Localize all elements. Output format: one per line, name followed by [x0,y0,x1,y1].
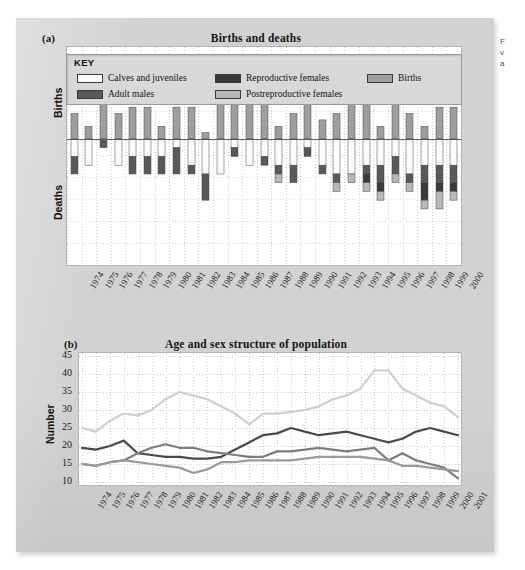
x-tick-label: 1976 [117,270,135,291]
x-tick-label: 1978 [151,490,169,511]
margin-caption-fragment: F v a [500,36,525,69]
legend-label-adult-males: Adult males [108,89,154,99]
y-tick-label: 40 [48,367,72,378]
x-tick-label: 1990 [321,270,339,291]
x-tick-label: 1986 [263,490,281,511]
panel-a-title: Births and deaths [40,32,472,44]
legend-swatch-reproductive-females [215,74,241,83]
x-tick-label: 1992 [346,490,364,511]
x-tick-label: 1974 [88,270,106,291]
legend-item-postreproductive-females: Postreproductive females [215,89,342,99]
x-tick-label: 1993 [360,490,378,511]
axis-label-number: Number [44,404,56,444]
x-tick-label: 1989 [304,490,322,511]
plot-area-age-sex-structure [78,352,462,486]
margin-caption-line-3: a [500,58,525,69]
x-tick-label: 1984 [234,270,252,291]
legend-label-reproductive-females: Reproductive females [246,73,329,83]
x-tick-label: 1991 [332,490,350,511]
x-tick-label: 1975 [109,490,127,511]
y-tick-label: 35 [48,385,72,396]
x-tick-label: 1979 [161,270,179,291]
y-tick-label: 15 [48,457,72,468]
x-tick-label: 1976 [123,490,141,511]
margin-caption-line-2: v [500,47,525,58]
chart-panel-a: (a) Births and deaths Births Deaths KEY … [40,32,472,300]
legend-swatch-calves-and-juveniles [77,74,103,83]
legend-item-reproductive-females: Reproductive females [215,73,329,83]
x-tick-label: 1987 [276,490,294,511]
x-tick-label: 1999 [453,270,471,291]
age-sex-structure-lines [79,353,461,485]
y-tick-label: 10 [48,475,72,486]
axis-label-births: Births [52,88,64,118]
legend-label-births: Births [398,73,421,83]
x-tick-label: 1981 [190,270,208,291]
x-tick-label: 1977 [137,490,155,511]
figure-page: F v a (a) Births and deaths Births Death… [0,0,525,570]
x-tick-label: 1999 [444,490,462,511]
x-tick-label: 1980 [175,270,193,291]
x-tick-label: 1979 [165,490,183,511]
margin-caption-line-1: F [500,36,525,47]
x-tick-label: 1996 [409,270,427,291]
legend-item-adult-males: Adult males [77,89,154,99]
chart-panel-b: (b) Age and sex structure of population … [40,338,472,548]
x-tick-label: 1982 [204,270,222,291]
legend-swatch-adult-males [77,90,103,99]
x-tick-label: 1985 [248,270,266,291]
x-tick-label: 1991 [336,270,354,291]
axis-label-deaths: Deaths [52,185,64,220]
x-tick-label: 1990 [318,490,336,511]
legend-title: KEY [74,57,94,68]
x-tick-label: 1987 [277,270,295,291]
x-tick-label: 1988 [290,490,308,511]
legend-swatch-postreproductive-females [215,90,241,99]
panel-b-title: Age and sex structure of population [40,338,472,350]
x-tick-label: 1989 [307,270,325,291]
x-tick-label: 1974 [95,490,113,511]
legend-label-calves-and-juveniles: Calves and juveniles [108,73,187,83]
x-tick-label: 1985 [249,490,267,511]
x-tick-label: 1978 [146,270,164,291]
x-tick-label: 1992 [350,270,368,291]
x-tick-label: 1975 [102,270,120,291]
x-axis-labels-panel-b: 1974197519761977197819791980198119821983… [78,488,462,536]
x-tick-label: 1977 [132,270,150,291]
x-axis-labels-panel-a: 1974197519761977197819791980198119821983… [66,268,462,316]
x-tick-label: 1993 [365,270,383,291]
legend-item-births: Births [367,73,421,83]
x-tick-label: 1998 [438,270,456,291]
x-tick-label: 1994 [380,270,398,291]
x-tick-label: 1986 [263,270,281,291]
x-tick-label: 1997 [423,270,441,291]
legend-swatch-births [367,74,393,83]
x-tick-label: 1983 [219,270,237,291]
x-tick-label: 1988 [292,270,310,291]
chart-legend: KEY Calves and juveniles Adult males Rep… [66,54,462,105]
y-tick-label: 45 [48,349,72,360]
legend-label-postreproductive-females: Postreproductive females [246,89,342,99]
legend-item-calves-and-juveniles: Calves and juveniles [77,73,187,83]
x-tick-label: 1995 [394,270,412,291]
